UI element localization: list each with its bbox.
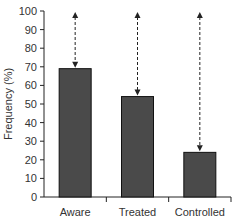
y-tick-label: 90: [25, 24, 37, 36]
bar-treated: [122, 97, 154, 197]
x-tick-label: Treated: [119, 206, 157, 218]
bar-aware: [59, 69, 91, 197]
y-tick-label: 10: [25, 172, 37, 184]
y-tick-label: 80: [25, 42, 37, 54]
y-tick-label: 40: [25, 117, 37, 129]
y-axis-label: Frequency (%): [2, 68, 14, 140]
y-tick-label: 60: [25, 79, 37, 91]
gap-arrow: [72, 12, 78, 68]
y-tick-label: 30: [25, 135, 37, 147]
bar-controlled: [184, 152, 216, 197]
bar-chart: 0102030405060708090100Frequency (%)Aware…: [0, 0, 232, 224]
y-tick-label: 0: [31, 191, 37, 203]
y-tick-label: 100: [19, 5, 37, 17]
y-tick-label: 20: [25, 154, 37, 166]
y-tick-label: 70: [25, 61, 37, 73]
gap-arrow: [135, 12, 141, 96]
x-tick-label: Aware: [60, 206, 91, 218]
gap-arrow: [197, 12, 203, 151]
y-tick-label: 50: [25, 98, 37, 110]
x-tick-label: Controlled: [175, 206, 225, 218]
